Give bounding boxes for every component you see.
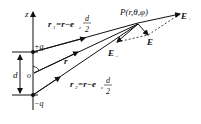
svg-text:=r−e: =r−e bbox=[56, 19, 74, 29]
svg-text:z: z bbox=[100, 85, 103, 90]
svg-text:2: 2 bbox=[106, 87, 110, 96]
svg-text:2: 2 bbox=[85, 25, 89, 34]
svg-text:+: + bbox=[188, 17, 191, 22]
dipole-diagram: z P(r,θ,φ) +q −q o d r r 1 =r−e z d 2 r … bbox=[0, 0, 201, 124]
r2-formula: r 2 =r−e z d 2 bbox=[70, 76, 112, 96]
svg-text:=r−e: =r−e bbox=[78, 79, 96, 89]
r1-formula: r 1 =r−e z d 2 bbox=[48, 14, 91, 34]
svg-text:d: d bbox=[106, 76, 111, 85]
d-label: d bbox=[13, 70, 18, 80]
svg-text:r: r bbox=[48, 19, 52, 29]
svg-text:z: z bbox=[78, 25, 81, 30]
E-total-vector bbox=[138, 24, 148, 35]
svg-text:E: E bbox=[107, 48, 114, 58]
E-minus-label: E − bbox=[107, 48, 118, 59]
z-label: z bbox=[24, 9, 29, 19]
svg-text:−: − bbox=[115, 54, 118, 59]
E-total-label: E bbox=[146, 37, 153, 47]
svg-text:d: d bbox=[85, 14, 90, 23]
svg-text:r: r bbox=[70, 79, 74, 89]
theta-arc bbox=[33, 66, 39, 70]
plus-q-label: +q bbox=[34, 42, 43, 51]
E-minus-vector bbox=[117, 24, 138, 42]
origin-label: o bbox=[27, 71, 31, 80]
r-label: r bbox=[64, 56, 68, 66]
point-p-label: P(r,θ,φ) bbox=[119, 7, 148, 17]
E-plus-label: E + bbox=[180, 11, 191, 22]
svg-text:E: E bbox=[180, 11, 187, 21]
minus-q-label: −q bbox=[34, 99, 43, 108]
